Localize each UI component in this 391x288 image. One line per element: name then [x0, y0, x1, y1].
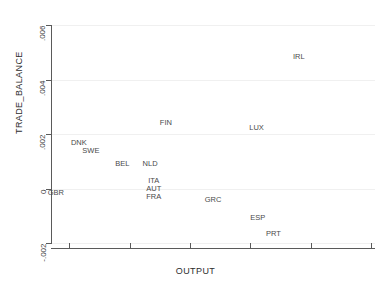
data-point-label-prt: PRT — [266, 229, 281, 238]
x-axis-line — [51, 248, 375, 249]
x-tick-mark — [250, 243, 251, 248]
y-tick-label: .004 — [39, 81, 48, 97]
data-point-label-nld: NLD — [143, 159, 158, 168]
y-tick-label: .002 — [39, 135, 48, 151]
data-point-label-esp: ESP — [250, 212, 265, 221]
x-tick-label: .025 — [0, 0, 196, 9]
x-tick-label: .045 — [0, 36, 196, 45]
data-point-label-bel: BEL — [115, 159, 129, 168]
x-tick-label: .05 — [0, 45, 196, 54]
x-axis-title: OUTPUT — [0, 266, 391, 276]
y-tick-label: -.002 — [39, 244, 48, 262]
x-tick-mark — [371, 243, 372, 248]
y-tick-label: 0 — [39, 190, 48, 194]
scatter-plot-figure: .006.004.0020-.002 .025.03.035.04.045.05… — [0, 0, 391, 288]
y-axis-title: TRADE_BALANCE — [14, 51, 24, 134]
gridline-horizontal — [51, 243, 375, 244]
data-point-label-lux: LUX — [249, 123, 264, 132]
x-tick-mark — [190, 243, 191, 248]
gridline-horizontal — [51, 134, 375, 135]
gridline-horizontal — [51, 80, 375, 81]
data-point-label-irl: IRL — [293, 52, 305, 61]
data-point-label-fin: FIN — [160, 118, 172, 127]
x-tick-mark — [311, 243, 312, 248]
gridline-horizontal — [51, 189, 375, 190]
x-tick-label: .03 — [0, 9, 196, 18]
x-tick-mark — [130, 243, 131, 248]
data-point-label-grc: GRC — [205, 195, 222, 204]
data-point-label-gbr: GBR — [48, 188, 64, 197]
x-tick-mark — [69, 243, 70, 248]
y-axis-line — [51, 25, 52, 244]
data-point-label-fra: FRA — [146, 192, 161, 201]
data-point-label-swe: SWE — [82, 145, 99, 154]
x-tick-label: .04 — [0, 27, 196, 36]
x-tick-label: .035 — [0, 18, 196, 27]
